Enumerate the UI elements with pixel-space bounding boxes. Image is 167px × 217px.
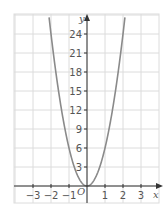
x-tick-label: −3 (26, 190, 41, 201)
x-tick-label: 1 (102, 190, 108, 201)
y-tick-label: 12 (69, 105, 82, 116)
y-tick-label: 6 (76, 143, 82, 154)
x-tick-label: 3 (138, 190, 144, 201)
tick-labels: −3−2−11233691215182124yxO (26, 13, 159, 201)
y-tick-label: 9 (76, 124, 82, 135)
y-tick-label: 18 (69, 67, 82, 78)
y-tick-label: 21 (69, 48, 82, 59)
y-tick-label: 24 (69, 29, 82, 40)
y-tick-label: 15 (69, 86, 82, 97)
x-tick-label: 2 (120, 190, 126, 201)
y-tick-label: 3 (76, 162, 82, 173)
x-tick-label: −2 (44, 190, 59, 201)
x-tick-label: −1 (62, 190, 77, 201)
parabola-chart: −3−2−11233691215182124yxO (0, 0, 167, 217)
y-axis-label: y (78, 13, 85, 24)
x-axis-label: x (153, 189, 159, 200)
origin-label: O (77, 186, 85, 197)
